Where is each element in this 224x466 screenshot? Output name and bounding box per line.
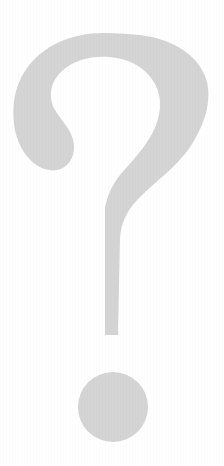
question-mark-dot	[78, 372, 148, 442]
question-mark-hook-and-stem	[13, 33, 208, 335]
question-mark-icon: Question mark	[0, 0, 224, 466]
image-canvas: Question mark	[0, 0, 224, 466]
